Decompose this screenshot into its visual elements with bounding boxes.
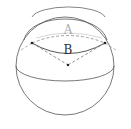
label-a: A [63,23,73,37]
small-circle-back [32,7,105,17]
point-left [31,42,34,45]
radius-right [68,43,105,65]
center-point [67,64,69,66]
point-right [104,42,107,45]
label-b: B [64,43,73,57]
left-extension [18,43,32,52]
sphere-diagram: A B [0,0,131,129]
equator-front [16,66,114,81]
right-extension [105,43,116,50]
